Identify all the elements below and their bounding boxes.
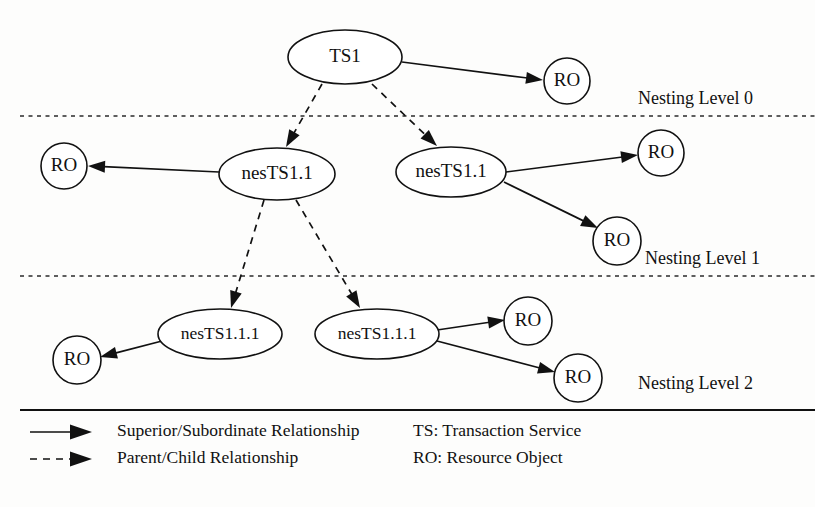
edge-nests11_b-to-ro_l1_r1 bbox=[506, 151, 638, 172]
node-ro_l2_left[interactable]: RO bbox=[53, 336, 101, 384]
arrowhead-icon bbox=[88, 161, 105, 173]
legend-label: Superior/Subordinate Relationship bbox=[117, 420, 360, 440]
edge-line bbox=[372, 84, 426, 135]
node-label: nesTS1.1.1 bbox=[181, 323, 260, 343]
edge-line bbox=[504, 182, 584, 221]
edge-line bbox=[296, 200, 352, 295]
legend-label: Parent/Child Relationship bbox=[117, 447, 299, 467]
arrowhead-icon bbox=[580, 215, 598, 228]
node-label: nesTS1.1 bbox=[241, 162, 312, 183]
level-label-lvl0: Nesting Level 0 bbox=[638, 88, 753, 108]
diagram-root: TS1ROnesTS1.1nesTS1.1ROROROnesTS1.1.1nes… bbox=[0, 0, 815, 507]
edge-nests111_b-to-ro_l2_r2 bbox=[437, 341, 555, 373]
diagram-nodes: TS1ROnesTS1.1nesTS1.1ROROROnesTS1.1.1nes… bbox=[41, 30, 684, 402]
arrowhead-icon bbox=[487, 317, 505, 329]
node-label: nesTS1.1.1 bbox=[338, 323, 417, 343]
node-ro_l1_r1[interactable]: RO bbox=[638, 130, 684, 176]
node-label: RO bbox=[648, 141, 674, 162]
node-ro_top[interactable]: RO bbox=[544, 58, 590, 104]
node-ro_l2_r2[interactable]: RO bbox=[554, 354, 602, 402]
node-label: RO bbox=[565, 366, 591, 387]
level-label-lvl2: Nesting Level 2 bbox=[638, 373, 753, 393]
node-nests11_b[interactable]: nesTS1.1 bbox=[396, 147, 506, 197]
edge-nests11_a-to-nests111_a bbox=[230, 200, 264, 308]
node-label: RO bbox=[515, 309, 541, 330]
edge-nests111_a-to-ro_l2_left bbox=[100, 341, 162, 359]
legend-solid: Superior/Subordinate Relationship bbox=[30, 420, 360, 440]
node-label: RO bbox=[51, 154, 77, 175]
edge-line bbox=[506, 157, 622, 172]
arrowhead-icon bbox=[537, 362, 555, 374]
arrowhead-icon bbox=[230, 290, 241, 308]
legend-arrowhead-icon bbox=[70, 452, 92, 467]
edge-line bbox=[402, 62, 527, 78]
node-nests111_a[interactable]: nesTS1.1.1 bbox=[158, 309, 282, 359]
edge-line bbox=[115, 341, 162, 353]
abbr-ro: RO: Resource Object bbox=[413, 447, 563, 467]
diagram-canvas: TS1ROnesTS1.1nesTS1.1ROROROnesTS1.1.1nes… bbox=[0, 0, 815, 507]
edge-nests11_a-to-nests111_b bbox=[296, 200, 360, 308]
edge-line bbox=[437, 322, 490, 330]
arrowhead-icon bbox=[346, 290, 360, 308]
legend-arrowhead-icon bbox=[70, 425, 92, 440]
edge-line bbox=[294, 84, 322, 133]
node-nests111_b[interactable]: nesTS1.1.1 bbox=[315, 309, 439, 359]
level-label-lvl1: Nesting Level 1 bbox=[645, 248, 760, 268]
arrowhead-icon bbox=[100, 347, 118, 359]
node-label: RO bbox=[64, 348, 90, 369]
abbr-ts: TS: Transaction Service bbox=[413, 420, 581, 440]
node-ro_l2_r1[interactable]: RO bbox=[504, 297, 552, 345]
edge-line bbox=[236, 200, 264, 293]
edge-ts1-to-nests11_b bbox=[372, 84, 437, 146]
arrowhead-icon bbox=[525, 72, 543, 84]
node-nests11_a[interactable]: nesTS1.1 bbox=[219, 148, 335, 200]
node-label: RO bbox=[554, 69, 580, 90]
edge-nests111_b-to-ro_l2_r1 bbox=[437, 317, 505, 330]
legend: Superior/Subordinate RelationshipParent/… bbox=[30, 420, 581, 467]
edge-line bbox=[104, 167, 219, 172]
node-label: TS1 bbox=[329, 45, 361, 66]
legend-dashed: Parent/Child Relationship bbox=[30, 447, 299, 467]
edge-nests11_b-to-ro_l1_r2 bbox=[504, 182, 598, 228]
arrowhead-icon bbox=[286, 129, 300, 147]
node-label: RO bbox=[604, 229, 630, 250]
arrowhead-icon bbox=[620, 151, 638, 163]
edge-ts1-to-ro_top bbox=[402, 62, 543, 84]
node-ro_l1_r2[interactable]: RO bbox=[593, 217, 641, 265]
node-ts1[interactable]: TS1 bbox=[288, 30, 402, 84]
node-ro_l1_left[interactable]: RO bbox=[41, 143, 87, 189]
edge-nests11_a-to-ro_l1_left bbox=[88, 161, 219, 173]
node-label: nesTS1.1 bbox=[415, 160, 486, 181]
